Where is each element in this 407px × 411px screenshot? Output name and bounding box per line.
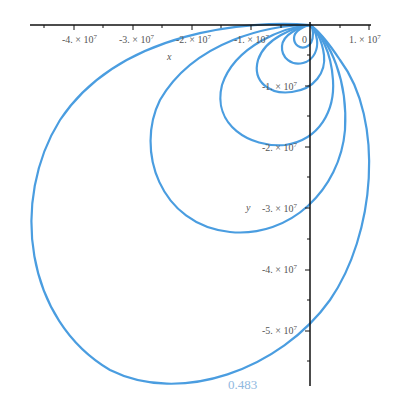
x-tick-label: -1. × 107	[234, 33, 269, 45]
plot-canvas: -4. × 107 -3. × 107 -2. × 107 -1. × 107 …	[0, 0, 407, 411]
x-tick-label: -3. × 107	[119, 33, 154, 45]
y-axis-label: y	[245, 202, 251, 213]
y-tick-label: -2. × 107	[262, 141, 297, 153]
x-tick-label: -2. × 107	[176, 33, 211, 45]
y-tick-label: -3. × 107	[262, 202, 297, 214]
x-tick-label: 1. × 107	[349, 33, 381, 45]
curve-loops	[31, 24, 369, 384]
y-tick-label: -4. × 107	[262, 263, 297, 275]
x-axis-label: x	[166, 51, 172, 62]
y-tick-labels: -1. × 107 -2. × 107 -3. × 107 -4. × 107 …	[262, 80, 297, 336]
x-tick-label: 0	[302, 34, 307, 45]
y-tick-label: -5. × 107	[262, 324, 297, 336]
parameter-value-label: 0.483	[228, 377, 257, 392]
x-tick-labels: -4. × 107 -3. × 107 -2. × 107 -1. × 107 …	[62, 33, 381, 45]
y-tick-label: -1. × 107	[262, 80, 297, 92]
x-tick-label: -4. × 107	[62, 33, 97, 45]
